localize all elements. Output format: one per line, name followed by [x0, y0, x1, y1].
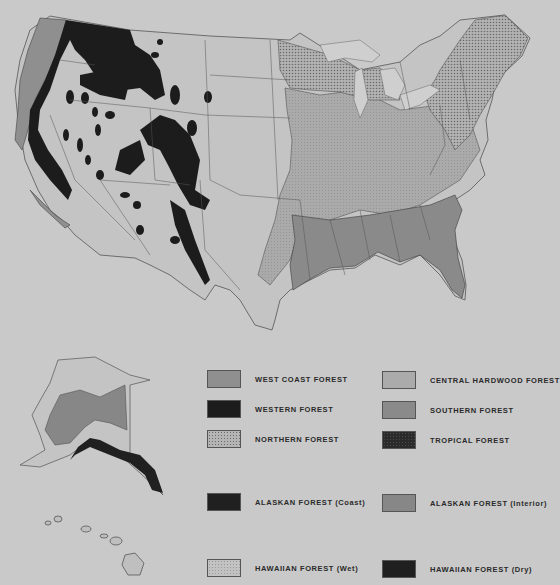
legend-item-hawaiian-forest-wet: HAWAIIAN FOREST (Wet)	[207, 559, 358, 577]
alaska-outline	[20, 357, 163, 495]
legend-label: TROPICAL FOREST	[430, 436, 510, 445]
legend-label: ALASKAN FOREST (Coast)	[255, 498, 365, 507]
legend-label: WEST COAST FOREST	[255, 375, 348, 384]
western-forest-swatch	[207, 400, 241, 418]
contiguous-us-map	[0, 0, 547, 360]
west-coast-forest-swatch	[207, 370, 241, 388]
legend-item-hawaiian-forest-dry: HAWAIIAN FOREST (Dry)	[382, 560, 532, 578]
legend-label: WESTERN FOREST	[255, 405, 333, 414]
southern-forest-swatch	[382, 401, 416, 419]
legend-item-tropical-forest: TROPICAL FOREST	[382, 431, 510, 449]
legend-item-southern-forest: SOUTHERN FOREST	[382, 401, 514, 419]
legend-item-west-coast-forest: WEST COAST FOREST	[207, 370, 348, 388]
tropical-forest-swatch	[382, 431, 416, 449]
legend-item-alaskan-forest-interior: ALASKAN FOREST (Interior)	[382, 494, 547, 512]
alaska-hawaii-inset	[0, 355, 200, 585]
alaskan-forest-interior-swatch	[382, 494, 416, 512]
legend-label: ALASKAN FOREST (Interior)	[430, 499, 547, 508]
legend-label: HAWAIIAN FOREST (Dry)	[430, 565, 532, 574]
legend-item-northern-forest: NORTHERN FOREST	[207, 430, 339, 448]
legend-label: NORTHERN FOREST	[255, 435, 339, 444]
legend-label: SOUTHERN FOREST	[430, 406, 514, 415]
legend-item-alaskan-forest-coast: ALASKAN FOREST (Coast)	[207, 493, 365, 511]
legend-label: CENTRAL HARDWOOD FOREST	[430, 376, 560, 385]
legend-item-western-forest: WESTERN FOREST	[207, 400, 333, 418]
alaskan-forest-coast-swatch	[207, 493, 241, 511]
central-hardwood-forest-swatch	[382, 371, 416, 389]
northern-forest-swatch	[207, 430, 241, 448]
legend-label: HAWAIIAN FOREST (Wet)	[255, 564, 358, 573]
hawaiian-islands	[45, 516, 144, 575]
legend-item-central-hardwood-forest: CENTRAL HARDWOOD FOREST	[382, 371, 560, 389]
hawaiian-forest-dry-swatch	[382, 560, 416, 578]
hawaiian-forest-wet-swatch	[207, 559, 241, 577]
